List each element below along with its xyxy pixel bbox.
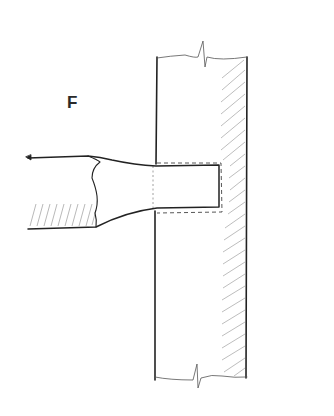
sketch-canvas: F (0, 0, 334, 416)
board-hatching (30, 204, 96, 226)
joint-drawing (0, 0, 334, 416)
mortise-outline (157, 163, 222, 213)
break-line-top (157, 41, 247, 67)
post (155, 41, 247, 388)
post-hatching (221, 60, 245, 376)
break-line-bottom (155, 364, 247, 388)
tenon-board (26, 155, 219, 229)
